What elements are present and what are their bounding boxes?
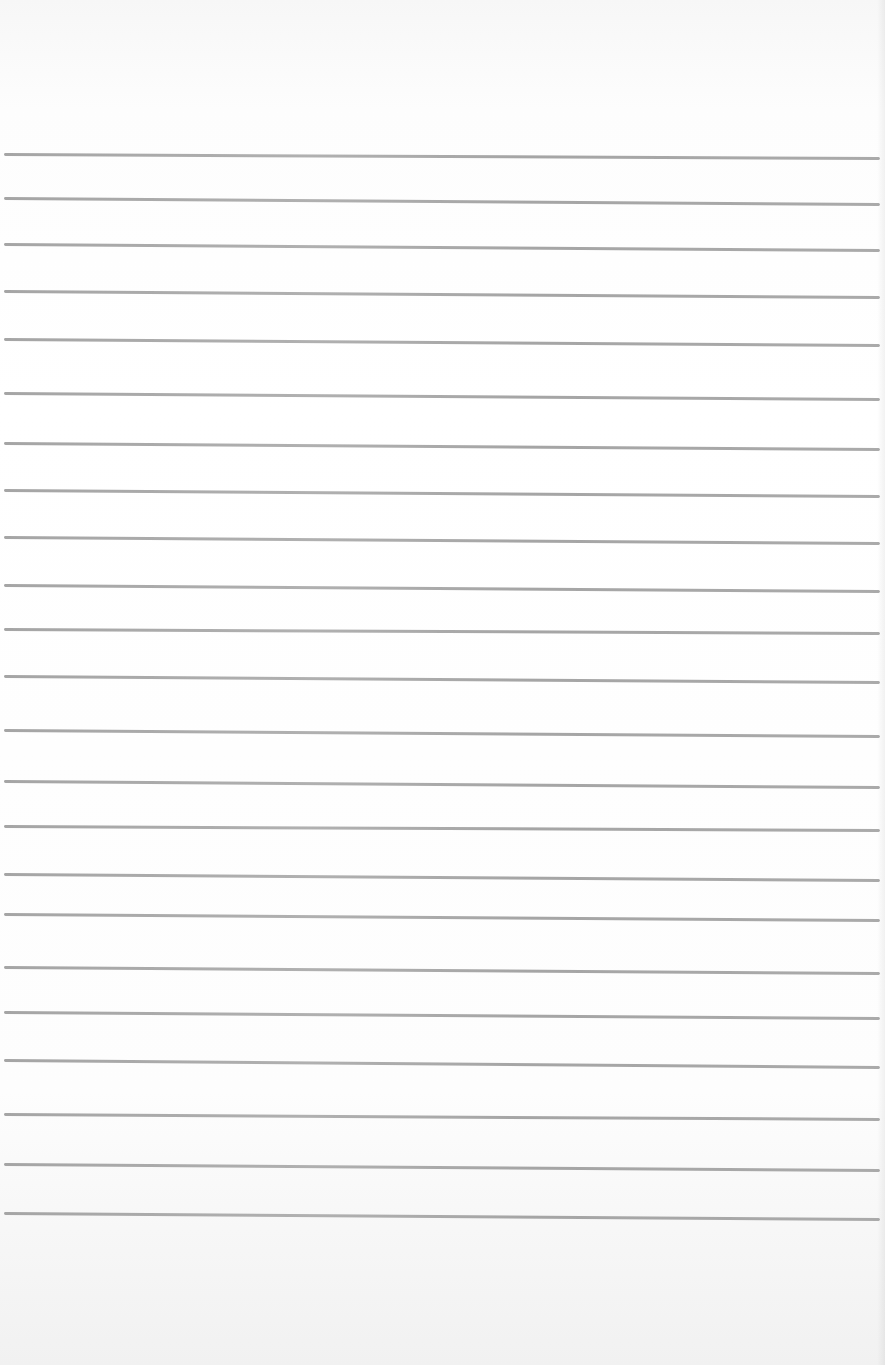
ruled-line xyxy=(4,780,880,789)
ruled-line xyxy=(4,338,880,347)
ruled-line xyxy=(4,675,880,684)
ruled-line xyxy=(4,1212,880,1221)
ruled-line xyxy=(4,442,880,451)
lined-paper-sheet xyxy=(0,0,885,1365)
ruled-line xyxy=(4,628,880,635)
ruled-line xyxy=(4,1011,880,1020)
ruled-line xyxy=(4,153,880,160)
ruled-line xyxy=(4,290,880,299)
ruled-line xyxy=(4,197,880,206)
ruled-line xyxy=(4,729,880,738)
ruled-line xyxy=(4,873,880,882)
ruled-line xyxy=(4,392,880,401)
ruled-line xyxy=(4,966,880,975)
ruled-line xyxy=(4,913,880,922)
ruled-line xyxy=(4,536,880,545)
ruled-line xyxy=(4,243,880,252)
ruled-line xyxy=(4,489,880,498)
ruled-line xyxy=(4,584,880,593)
ruled-line xyxy=(4,1163,880,1172)
ruled-line xyxy=(4,1113,880,1121)
ruled-line xyxy=(4,1059,880,1069)
ruled-line xyxy=(4,825,880,832)
paper-edge-shadow xyxy=(877,0,885,1365)
